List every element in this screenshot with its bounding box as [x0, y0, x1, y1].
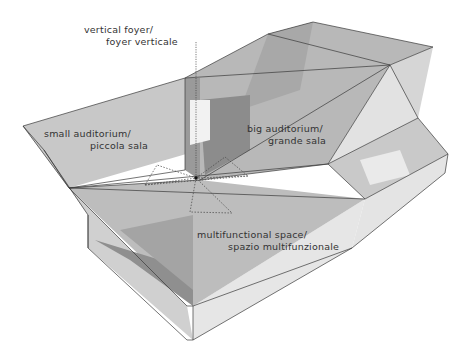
label-vertical-foyer: vertical foyer/ foyer verticale [84, 24, 178, 48]
label-vertical-foyer-it: foyer verticale [84, 36, 178, 48]
label-vertical-foyer-en: vertical foyer/ [84, 24, 178, 36]
foyer-marker-dot [194, 176, 198, 180]
label-small-auditorium-it: piccola sala [44, 140, 148, 152]
label-multifunctional-space: multifunctional space/ spazio multifunzi… [197, 229, 339, 253]
label-small-auditorium-en: small auditorium/ [44, 128, 148, 140]
building-axonometric [0, 0, 472, 359]
label-big-auditorium-it: grande sala [247, 135, 326, 147]
label-big-auditorium: big auditorium/ grande sala [247, 123, 326, 147]
label-big-auditorium-en: big auditorium/ [247, 123, 326, 135]
building-faces [23, 22, 448, 340]
label-multifunctional-space-it: spazio multifunzionale [197, 241, 339, 253]
label-multifunctional-space-en: multifunctional space/ [197, 229, 339, 241]
label-small-auditorium: small auditorium/ piccola sala [44, 128, 148, 152]
